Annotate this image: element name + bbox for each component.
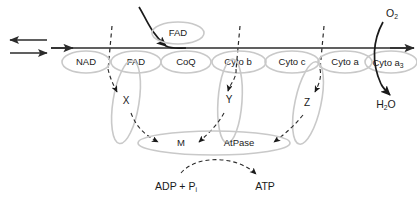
node-cyto-a3[interactable]: Cyto a3 — [365, 51, 417, 73]
node-coq[interactable]: CoQ — [161, 51, 211, 73]
oxygen-label-group: O2 — [386, 7, 398, 20]
node-m-atpase-complex[interactable]: M AtPase — [138, 131, 290, 155]
oxygen-label: O2 — [386, 7, 398, 20]
reversible-arrow-pair — [10, 40, 47, 53]
atpase-label: AtPase — [224, 137, 255, 148]
fad-entry-arrow — [139, 7, 166, 46]
oxygen-label-main: O — [386, 7, 394, 19]
atp-label-group: ATP — [255, 180, 275, 192]
atp-label: ATP — [255, 180, 275, 192]
m-atpase-ellipse — [138, 131, 290, 155]
intermediate-z-label: Z — [304, 97, 310, 108]
arrow-y-to-complex — [199, 113, 224, 142]
coq-label: CoQ — [176, 56, 196, 67]
water-label-tail: O — [388, 98, 396, 110]
adp-label: ADP + Pi — [155, 180, 197, 193]
intermediate-y-label: Y — [226, 94, 233, 105]
diagram-canvas: FAD NAD FAD CoQ Cyto b Cyto c — [0, 0, 417, 205]
cyto-a3-label-main: Cyto a — [372, 56, 400, 67]
m-label: M — [177, 137, 185, 148]
node-fad-top[interactable]: FAD — [152, 22, 204, 44]
adp-label-sub: i — [195, 186, 197, 193]
complex-inflow-arrows — [131, 113, 303, 142]
coupling-loops — [107, 58, 330, 147]
adp-to-atp-arrow — [181, 160, 256, 174]
water-label-main: H — [376, 98, 384, 110]
arrow-to-x — [108, 69, 117, 92]
fad-entry-tail — [166, 46, 186, 48]
nad-label: NAD — [76, 56, 96, 67]
cyto-a3-label-sub: 3 — [400, 61, 404, 68]
intermediate-labels: X Y Z — [123, 94, 310, 108]
oxygen-label-sub: 2 — [394, 13, 398, 20]
cyto-c-label: Cyto c — [279, 56, 306, 67]
phosphorylation-arc — [181, 160, 256, 174]
arrow-z-to-complex — [274, 115, 303, 142]
cyto-a-label: Cyto a — [331, 56, 359, 67]
cyto-a3-label: Cyto a3 — [372, 56, 403, 68]
etc-diagram: FAD NAD FAD CoQ Cyto b Cyto c — [0, 0, 417, 205]
water-label-group: H2O — [376, 98, 396, 111]
fad-top-label: FAD — [169, 27, 188, 38]
adp-label-group: ADP + Pi — [155, 180, 197, 193]
node-cyto-a[interactable]: Cyto a — [318, 51, 372, 73]
adp-label-main: ADP + P — [155, 180, 195, 192]
arrow-to-z — [315, 69, 321, 92]
intermediate-x-label: X — [123, 95, 130, 106]
node-nad[interactable]: NAD — [62, 51, 110, 73]
node-cyto-c[interactable]: Cyto c — [265, 51, 319, 73]
node-cyto-b[interactable]: Cyto b — [212, 51, 266, 73]
h2o-arrow — [381, 84, 390, 95]
water-label: H2O — [376, 98, 396, 111]
